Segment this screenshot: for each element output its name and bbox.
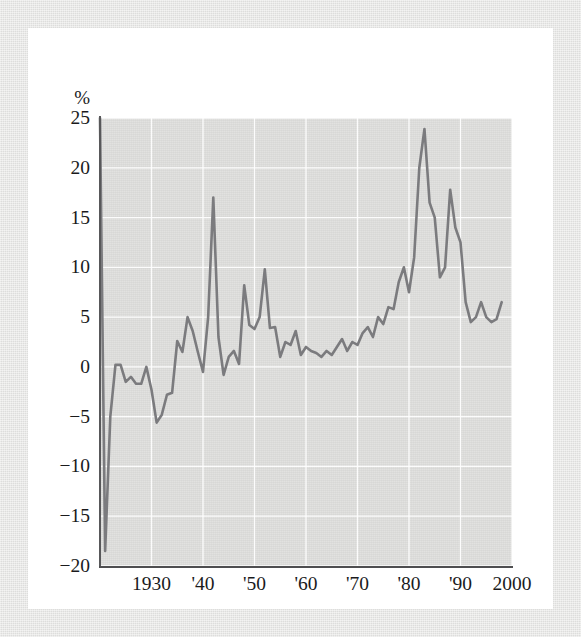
x-axis-tick-label: '60	[294, 574, 317, 594]
y-axis-tick-label: 5	[28, 307, 90, 327]
x-axis-tick-label: '70	[346, 574, 369, 594]
y-axis-tick-label: −5	[28, 407, 90, 427]
x-axis-tick-label: '90	[449, 574, 472, 594]
y-axis-tick-label: 10	[28, 257, 90, 277]
x-axis-tick-label: '80	[397, 574, 420, 594]
x-axis-tick-label: '40	[191, 574, 214, 594]
y-axis-tick-label: −15	[28, 506, 90, 526]
figure-card: % 2520151050−5−10−15−20 1930'40'50'60'70…	[28, 28, 553, 609]
x-axis-tick-label: '50	[243, 574, 266, 594]
series-inflation-rate	[100, 118, 502, 551]
x-axis-tick-label: 2000	[493, 574, 532, 594]
figure-page: % 2520151050−5−10−15−20 1930'40'50'60'70…	[0, 0, 581, 637]
y-axis-tick-label: 25	[28, 108, 90, 128]
y-axis-tick-label: −10	[28, 456, 90, 476]
y-axis-tick-label: 20	[28, 158, 90, 178]
x-axis-tick-label: 1930	[132, 574, 171, 594]
data-line	[100, 118, 512, 566]
y-axis-unit-label: %	[28, 88, 90, 107]
x-axis-spine	[99, 566, 513, 568]
y-axis-tick-label: 15	[28, 208, 90, 228]
y-axis-spine	[99, 116, 101, 568]
inflation-line-chart: % 2520151050−5−10−15−20 1930'40'50'60'70…	[28, 28, 553, 609]
y-axis-tick-label: −20	[28, 556, 90, 576]
plot-area	[100, 118, 512, 566]
y-axis-tick-label: 0	[28, 357, 90, 377]
